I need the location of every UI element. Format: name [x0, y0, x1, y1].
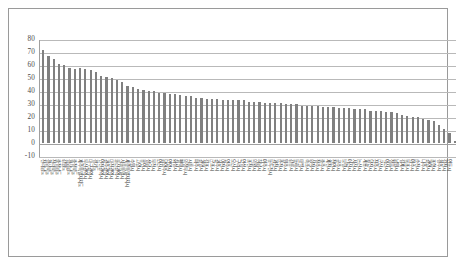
x-label: 부산광역시: [82, 159, 87, 219]
bar: [63, 65, 65, 143]
x-label: 대전광역시: [108, 159, 113, 219]
bar: [132, 87, 134, 143]
x-label: 보령시: [341, 159, 346, 219]
x-label: 평택시: [177, 159, 182, 219]
bar: [153, 91, 155, 143]
bar: [179, 95, 181, 143]
bar: [359, 109, 361, 143]
bar-series: [39, 40, 456, 157]
bar: [422, 119, 424, 144]
plot-area: 80706050403020100-10: [39, 40, 456, 157]
bar: [317, 106, 319, 144]
x-label: 당진시: [367, 159, 372, 219]
bar: [74, 69, 76, 143]
bar: [174, 94, 176, 143]
bar: [90, 70, 92, 143]
bar: [248, 102, 250, 144]
bar: [148, 91, 150, 143]
x-label: 수원시: [130, 159, 135, 219]
bar: [269, 103, 271, 143]
x-label: 충주시: [320, 159, 325, 219]
bar: [390, 112, 392, 143]
bar: [237, 100, 239, 143]
bar: [53, 59, 55, 144]
bar: [47, 56, 49, 143]
x-label: 공주시: [335, 159, 340, 219]
bar: [332, 107, 334, 143]
bar: [253, 102, 255, 144]
y-tick-label-80: 80: [27, 36, 35, 43]
x-label: 고양시: [135, 159, 140, 219]
bar: [211, 99, 213, 143]
y-axis-line: [39, 40, 40, 157]
y-tick-label-60: 60: [27, 62, 35, 69]
x-label: 제주특별자치도: [77, 159, 82, 219]
x-label: 제천시: [325, 159, 330, 219]
x-axis-category-labels: 전라남도경상북도전라북도충청남도강원도경상남도충청북도제주특별자치도부산광역시대…: [39, 159, 456, 239]
bar: [42, 50, 44, 144]
bar: [142, 90, 144, 143]
bar: [105, 77, 107, 143]
bar: [364, 109, 366, 143]
x-label: 화성시: [172, 159, 177, 219]
bar: [79, 68, 81, 143]
x-label: 안양시: [167, 159, 172, 219]
x-label: 부천시: [151, 159, 156, 219]
x-label: 경상북도: [45, 159, 50, 219]
x-label: 군포시: [209, 159, 214, 219]
bar: [137, 89, 139, 144]
bar: [222, 100, 224, 143]
x-label: 안동시: [446, 159, 451, 219]
bar: [158, 93, 160, 144]
bar: [116, 80, 118, 144]
x-label: 충청남도: [56, 159, 61, 219]
x-label: 여주시: [262, 159, 267, 219]
chart-frame: 80706050403020100-10 전라남도경상북도전라북도충청남도강원도…: [8, 8, 448, 257]
x-label: 목포시: [404, 159, 409, 219]
x-label: 강원도: [61, 159, 66, 219]
bar: [301, 106, 303, 144]
y-tick-label--10: -10: [25, 153, 35, 160]
bar: [311, 106, 313, 144]
y-tick-label-50: 50: [27, 75, 35, 82]
bar: [121, 82, 123, 143]
y-tick-label-20: 20: [27, 114, 35, 121]
x-label: 양주시: [225, 159, 230, 219]
x-label: 김제시: [399, 159, 404, 219]
bar: [163, 93, 165, 144]
bar: [343, 108, 345, 143]
y-tick-label-40: 40: [27, 88, 35, 95]
x-label: 오산시: [230, 159, 235, 219]
x-label: 군산시: [378, 159, 383, 219]
x-label: 전라남도: [40, 159, 45, 219]
y-tick-label-30: 30: [27, 101, 35, 108]
bar: [448, 133, 450, 143]
y-tick-label-70: 70: [27, 49, 35, 56]
bar: [84, 69, 86, 143]
x-label: 계룡시: [362, 159, 367, 219]
x-label: 남원시: [393, 159, 398, 219]
x-label: 과천시: [272, 159, 277, 219]
bar: [417, 117, 419, 143]
bar: [68, 68, 70, 143]
bar: [322, 107, 324, 143]
bar: [185, 96, 187, 143]
bar: [216, 99, 218, 143]
bar: [58, 64, 60, 143]
x-label: 아산시: [346, 159, 351, 219]
x-label: 경주시: [436, 159, 441, 219]
x-label: 논산시: [357, 159, 362, 219]
bar: [280, 103, 282, 143]
x-label: 충청북도: [71, 159, 76, 219]
bar: [274, 103, 276, 143]
bar: [438, 125, 440, 143]
bar: [396, 113, 398, 143]
bar: [327, 107, 329, 143]
x-label: 안성시: [240, 159, 245, 219]
chart-figure: 80706050403020100-10 전라남도경상북도전라북도충청남도강원도…: [0, 0, 458, 269]
bar: [348, 108, 350, 143]
bar: [200, 98, 202, 144]
bar: [111, 78, 113, 143]
x-label: 포항시: [430, 159, 435, 219]
x-label: 김천시: [441, 159, 446, 219]
